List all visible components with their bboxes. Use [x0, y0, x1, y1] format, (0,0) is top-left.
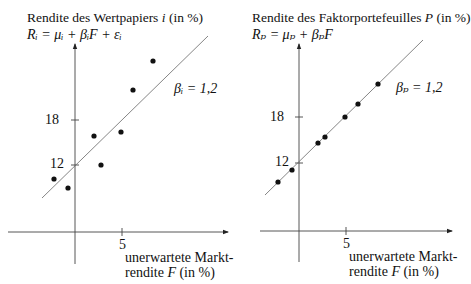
left-title-text: Rendite des Wertpapiers [27, 10, 158, 25]
left-y-tick-label-12: 12 [50, 157, 64, 171]
right-y-tick-label-18: 18 [270, 110, 284, 124]
right-title-var: P [425, 10, 433, 25]
left-chart-plot [0, 0, 232, 284]
left-xlabel-var: F [167, 265, 176, 280]
left-y-tick-label-18: 18 [45, 113, 59, 127]
left-data-points [51, 58, 155, 190]
right-x-axis-label: unerwartete Markt- rendite F (in %) [349, 249, 457, 279]
left-title-unit: (in %) [169, 10, 203, 25]
right-title-unit: (in %) [436, 10, 470, 25]
right-xlabel-line1: unerwartete Markt- [349, 249, 457, 264]
right-xlabel-post: (in %) [400, 264, 439, 279]
left-xlabel-pre: rendite [125, 265, 167, 280]
right-xlabel-pre: rendite [349, 264, 391, 279]
right-beta-annotation: βₚ = 1,2 [396, 81, 443, 95]
left-x-axis-label: unerwartete Markt- rendite F (in %) [125, 250, 233, 280]
left-beta-annotation: βᵢ = 1,2 [174, 82, 217, 96]
right-y-tick-label-12: 12 [275, 155, 289, 169]
left-chart-panel: Rendite des Wertpapiers i (in %) Rᵢ = μᵢ… [0, 0, 232, 284]
right-chart-panel: Rendite des Faktorportefeuilles P (in %)… [232, 0, 463, 284]
right-equation: Rₚ = μₚ + βₚF [252, 28, 333, 42]
left-xlabel-line2: rendite F (in %) [125, 265, 233, 280]
left-chart-title: Rendite des Wertpapiers i (in %) [27, 11, 203, 25]
left-xlabel-line1: unerwartete Markt- [125, 250, 233, 265]
right-xlabel-line2: rendite F (in %) [349, 264, 457, 279]
right-title-text: Rendite des Faktorportefeuilles [252, 10, 421, 25]
left-equation: Rᵢ = μᵢ + βᵢF + εᵢ [27, 28, 122, 42]
right-xlabel-var: F [391, 264, 400, 279]
left-xlabel-post: (in %) [176, 265, 215, 280]
right-chart-title: Rendite des Faktorportefeuilles P (in %) [252, 11, 471, 25]
left-regression-line [42, 36, 208, 198]
left-title-var: i [162, 10, 166, 25]
